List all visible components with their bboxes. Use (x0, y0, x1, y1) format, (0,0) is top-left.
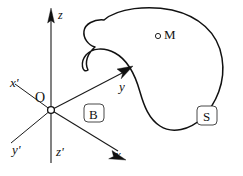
axis-label-x-prime: x' (10, 76, 19, 89)
origin-label: O (35, 91, 45, 105)
origin-marker-icon (48, 107, 55, 114)
axis-label-x: x (115, 148, 121, 161)
body-label-s: S (203, 110, 210, 123)
axis-label-z-prime: z' (56, 145, 64, 158)
point-m-marker-icon (155, 33, 160, 38)
axis-label-y-prime: y' (12, 143, 21, 156)
axis-line-y-prime (11, 110, 51, 143)
frame-label-b: B (89, 108, 98, 121)
point-label-m: M (164, 28, 176, 41)
axis-label-z: z (58, 9, 63, 21)
axis-line-x-prime (15, 84, 51, 110)
diagram-canvas: z z' x x' y y' O M B S (0, 0, 243, 176)
axis-label-y: y (119, 80, 125, 93)
